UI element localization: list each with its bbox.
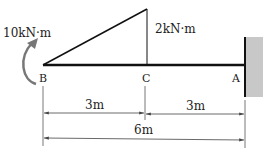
beam-diagram: 10kN·m 2kN·m B C A 3m 3m 6m xyxy=(0,0,269,159)
point-label-a: A xyxy=(231,72,241,85)
dimension-line-ba xyxy=(44,138,244,140)
fixed-support-wall xyxy=(246,37,263,97)
moment-diagram-slope xyxy=(43,9,147,65)
point-label-b: B xyxy=(39,72,47,85)
moment-arrow-icon xyxy=(23,38,38,84)
point-label-c: C xyxy=(142,72,150,85)
dimension-label-ba: 6m xyxy=(134,123,154,137)
moment-label-c: 2kN·m xyxy=(155,22,196,36)
moment-label-applied: 10kN·m xyxy=(3,26,52,40)
dimension-label-bc: 3m xyxy=(85,98,105,112)
dimension-label-ca: 3m xyxy=(186,99,206,113)
